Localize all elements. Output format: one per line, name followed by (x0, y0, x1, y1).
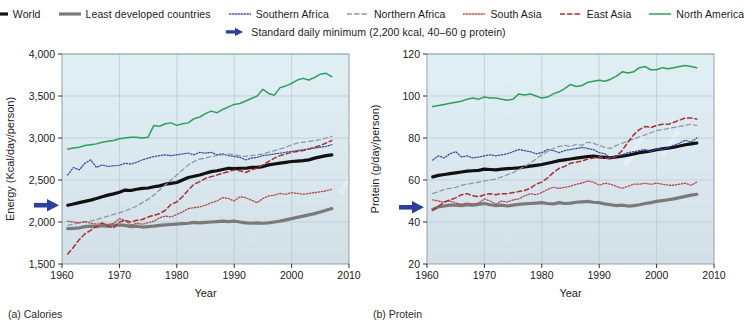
x-tick-label: 2000 (645, 269, 669, 281)
x-tick-label: 2010 (337, 269, 361, 281)
legend-label-east-asia: East Asia (587, 8, 632, 20)
legend-label-northern-africa: Northern Africa (374, 8, 446, 20)
y-tick-label: 3,500 (29, 90, 55, 102)
x-tick-label: 1980 (165, 269, 189, 281)
y-tick-label: 2,500 (29, 174, 55, 186)
legend-label-world: World (13, 8, 41, 20)
y-tick-label: 60 (408, 174, 420, 186)
legend-item-standard-daily-minimum[interactable]: Standard daily minimum (2,200 kcal, 40–6… (224, 26, 505, 38)
y-tick-label: 20 (408, 258, 420, 270)
arrow-shaft (34, 203, 48, 208)
standard-minimum-arrow-icon (399, 201, 424, 213)
protein-plot: 20406080100120196019701980199020002010Ye… (365, 42, 730, 310)
x-tick-label: 1970 (473, 269, 497, 281)
blue-arrow-icon (224, 27, 246, 37)
x-tick-label: 1990 (588, 269, 612, 281)
legend-primary-row: WorldLeast developed countriesSouthern A… (0, 0, 730, 22)
legend-swatch-southern-africa (229, 9, 251, 19)
legend-item-southern-africa[interactable]: Southern Africa (229, 8, 329, 20)
x-tick-label: 1990 (223, 269, 247, 281)
y-tick-label: 100 (402, 90, 420, 102)
standard-minimum-arrow-icon (34, 199, 59, 211)
legend-item-northern-africa[interactable]: Northern Africa (347, 8, 446, 20)
chart-protein: 20406080100120196019701980199020002010Ye… (365, 42, 730, 320)
legend-marker-row: Standard daily minimum (2,200 kcal, 40–6… (0, 22, 730, 42)
legend-item-south-asia[interactable]: South Asia (463, 8, 541, 20)
legend-swatch-world (0, 9, 8, 19)
legend-swatch-northern-africa (347, 9, 369, 19)
x-axis-title: Year (194, 287, 217, 299)
legend-swatch-south-asia (463, 9, 485, 19)
legend-item-north-america[interactable]: North America (649, 8, 744, 20)
legend-label-least-developed-countries: Least developed countries (86, 8, 211, 20)
caption-calories: (a) Calories (0, 308, 365, 320)
legend-swatch-north-america (649, 9, 671, 19)
y-tick-label: 120 (402, 48, 420, 60)
y-axis-title: Protein (g/day/person) (369, 105, 381, 214)
x-tick-label: 1960 (50, 269, 74, 281)
x-tick-label: 1970 (108, 269, 132, 281)
chart-calories: 1,5002,0002,5003,0003,5004,0001960197019… (0, 42, 365, 320)
legend-label-south-asia: South Asia (490, 8, 541, 20)
legend-label-southern-africa: Southern Africa (256, 8, 329, 20)
legend-item-least-developed-countries[interactable]: Least developed countries (59, 8, 211, 20)
x-tick-label: 2000 (280, 269, 304, 281)
arrow-shaft (399, 205, 413, 210)
y-tick-label: 1,500 (29, 258, 55, 270)
y-tick-label: 40 (408, 216, 420, 228)
x-tick-label: 1980 (530, 269, 554, 281)
y-tick-label: 3,000 (29, 132, 55, 144)
legend-item-east-asia[interactable]: East Asia (560, 8, 632, 20)
arrow-head (47, 199, 59, 211)
legend-label-north-america: North America (676, 8, 744, 20)
charts-row: 1,5002,0002,5003,0003,5004,0001960197019… (0, 42, 730, 320)
calories-plot: 1,5002,0002,5003,0003,5004,0001960197019… (0, 42, 365, 310)
caption-protein: (b) Protein (365, 308, 730, 320)
x-tick-label: 2010 (702, 269, 726, 281)
y-tick-label: 2,000 (29, 216, 55, 228)
x-tick-label: 1960 (415, 269, 439, 281)
legend-swatch-least-developed-countries (59, 9, 81, 19)
legend-swatch-east-asia (560, 9, 582, 19)
legend-item-world[interactable]: World (0, 8, 41, 20)
legend-label-standard-daily-minimum: Standard daily minimum (2,200 kcal, 40–6… (251, 26, 505, 38)
y-tick-label: 4,000 (29, 48, 55, 60)
x-axis-title: Year (559, 287, 582, 299)
arrow-head (412, 201, 424, 213)
y-tick-label: 80 (408, 132, 420, 144)
y-axis-title: Energy (Kcal/day/person) (4, 97, 16, 221)
